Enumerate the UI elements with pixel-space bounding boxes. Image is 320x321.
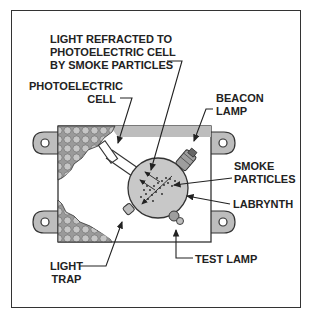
mounting-tab-top-right — [210, 132, 235, 154]
mounting-tab-bottom-right — [210, 211, 235, 233]
mounting-tab-top-left — [33, 132, 60, 154]
label-labrynth: LABRYNTH — [233, 198, 293, 211]
label-light-trap: LIGHT TRAP — [50, 260, 83, 286]
label-smoke-particles: SMOKE PARTICLES — [234, 160, 296, 186]
label-test-lamp: TEST LAMP — [195, 253, 257, 266]
label-photoelectric-cell: PHOTOELECTRIC CELL — [29, 80, 116, 106]
label-light-refracted: LIGHT REFRACTED TO PHOTOELECTRIC CELL BY… — [50, 33, 176, 72]
label-beacon-lamp: BEACON LAMP — [216, 92, 264, 118]
mounting-tab-bottom-left — [33, 211, 60, 233]
labyrinth-chamber — [128, 158, 188, 218]
